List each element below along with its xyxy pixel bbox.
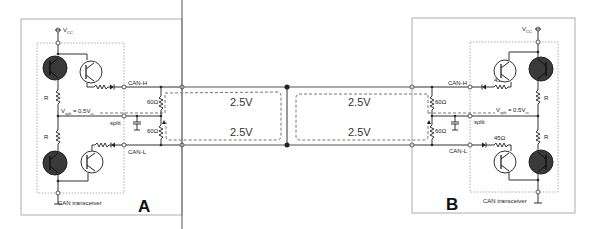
resistor-icon	[159, 125, 163, 139]
termination-lower-a: 60Ω	[147, 128, 159, 134]
canl-pin-a	[122, 143, 126, 147]
vsplit-label-b: Vsplit = 0.5Vcc	[496, 107, 529, 115]
npn-transistor-icon	[494, 60, 516, 82]
termination-upper-b: 60Ω	[435, 99, 447, 105]
diode-icon	[110, 85, 114, 90]
split-pin-b	[468, 114, 472, 118]
canl-label-a: CAN-L	[128, 149, 147, 155]
vcc-label-a: VCC	[63, 27, 73, 35]
resistor-r-upper-b: R	[544, 95, 549, 101]
npn-transistor-icon	[81, 151, 103, 173]
resistor-icon	[536, 130, 540, 144]
node-b: 60Ω 60Ω CAN-H split CAN-L 45Ω	[412, 18, 575, 214]
vcc-terminal-icon	[55, 28, 61, 32]
split-label-a: split	[110, 120, 121, 126]
npn-transistor-icon	[43, 151, 67, 175]
series-resistor-lower-b: 45Ω	[494, 135, 506, 141]
transceiver-label-a: CAN transceiver	[58, 200, 102, 206]
bus-right-canl-voltage: 2.5V	[348, 126, 371, 138]
can-bus-diagram: VCC R CAN-H Vs	[0, 0, 595, 229]
capacitor-icon	[133, 116, 141, 130]
termination-lower-b: 60Ω	[435, 128, 447, 134]
npn-transistor-icon	[529, 150, 553, 174]
canl-pin-b	[468, 143, 472, 147]
npn-transistor-icon	[43, 56, 67, 80]
canl-label-b: CAN-L	[449, 148, 468, 154]
node-a-outer-box	[21, 19, 182, 215]
vsplit-label-a: Vsplit = 0.5Vcc	[61, 108, 94, 116]
resistor-icon	[56, 90, 60, 104]
canh-pin-b	[468, 85, 472, 89]
resistor-r-lower-b: R	[544, 134, 549, 140]
diode-icon	[482, 143, 486, 148]
vcc-label-b: VCC	[522, 26, 532, 34]
resistor-icon	[56, 130, 60, 144]
vcc-terminal-icon	[535, 27, 541, 31]
bus-left-canl-voltage: 2.5V	[230, 126, 253, 138]
canh-label-b: CAN-H	[448, 80, 467, 86]
resistor-icon	[430, 125, 434, 139]
node-label-a: A	[138, 197, 150, 216]
resistor-icon	[94, 85, 108, 89]
node-label-b: B	[446, 195, 458, 214]
resistor-icon	[95, 143, 109, 147]
canh-pin-a	[122, 85, 126, 89]
bus-left-canh-voltage: 2.5V	[230, 96, 253, 108]
resistor-icon	[494, 85, 508, 89]
can-bus: 2.5V 2.5V 2.5V 2.5V	[165, 0, 428, 229]
resistor-r-upper-a: R	[44, 95, 49, 101]
resistor-icon	[159, 96, 163, 110]
arrow-icon	[162, 120, 166, 124]
canh-label-a: CAN-H	[128, 80, 147, 86]
split-pin-a	[122, 114, 126, 118]
node-a: VCC R CAN-H Vs	[21, 19, 182, 216]
capacitor-icon	[451, 116, 459, 130]
termination-upper-a: 60Ω	[147, 99, 159, 105]
resistor-icon	[430, 96, 434, 110]
split-label-b: split	[474, 119, 485, 125]
transceiver-label-b: CAN transceiver	[483, 198, 527, 204]
resistor-icon	[536, 90, 540, 104]
npn-transistor-icon	[80, 61, 102, 83]
npn-transistor-icon	[494, 151, 516, 173]
bus-right-canh-voltage: 2.5V	[348, 96, 371, 108]
diode-icon	[111, 143, 115, 148]
npn-transistor-icon	[529, 57, 553, 81]
resistor-r-lower-a: R	[44, 134, 49, 140]
diode-icon	[482, 85, 486, 90]
resistor-icon	[494, 143, 508, 147]
